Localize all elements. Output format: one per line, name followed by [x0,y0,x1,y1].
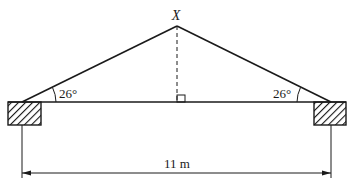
apex-label: X [171,8,181,23]
left-angle-label: 26° [59,86,77,101]
right-angle-arc [297,88,301,103]
left-support [8,102,41,125]
right-rafter [177,26,331,102]
right-support [314,102,346,125]
right-arrow-icon [322,171,331,176]
left-rafter [22,26,177,102]
right-angle-label: 26° [273,86,291,101]
span-label: 11 m [164,156,190,171]
left-angle-arc [53,88,57,103]
left-arrow-icon [22,171,31,176]
right-angle-marker [177,95,185,102]
roof-truss-diagram: X 26° 26° 11 m [0,0,354,185]
